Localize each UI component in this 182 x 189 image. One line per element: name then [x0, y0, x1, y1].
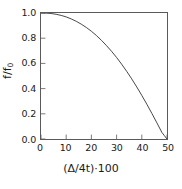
y-tick-label: 1.0 — [2, 8, 36, 18]
x-axis-tick-labels: 01020304050 — [40, 143, 168, 157]
x-axis-title: (Δ/4t)·100 — [0, 163, 182, 175]
chart-figure: 1.0 0.8 0.6 0.4 0.2 0.0 f/f0 01020304050… — [0, 0, 182, 189]
curve-svg — [41, 13, 167, 139]
plot-area — [40, 12, 168, 140]
y-axis-title-main: f/f — [1, 67, 14, 78]
y-axis-title-subscript: 0 — [6, 63, 15, 68]
y-tick-label: 0.2 — [2, 109, 36, 119]
data-curve-line — [41, 13, 167, 139]
y-axis-title: f/f0 — [2, 41, 16, 101]
x-tick-label: 50 — [153, 143, 182, 153]
axis-ticks — [41, 13, 167, 139]
